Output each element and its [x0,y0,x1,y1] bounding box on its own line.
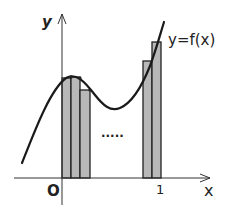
x-axis-label: x [204,181,213,200]
origin-label: O [47,182,60,200]
bars-left [62,77,90,178]
riemann-sum-diagram: y x O 1 y=f(x) ····· [0,0,232,213]
bar-n [152,42,161,178]
bar-3 [80,90,90,178]
bar-2 [71,77,80,178]
tick-one-label: 1 [156,182,164,197]
bar-1 [62,78,71,178]
curve-label: y=f(x) [168,31,215,49]
y-axis-label: y [42,13,53,31]
ellipsis: ····· [101,129,124,143]
